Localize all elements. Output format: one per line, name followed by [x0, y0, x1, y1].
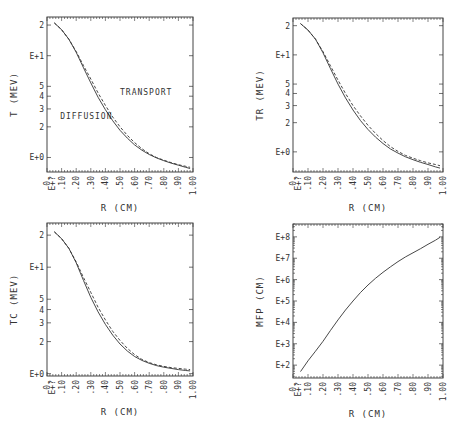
y-tick-label: E+8 [276, 233, 291, 242]
x-tick-label: .10 [58, 380, 67, 395]
y-tick-label: 3 [39, 105, 44, 114]
x-tick-label: .40 [349, 382, 358, 397]
y-tick-label: E+0 [30, 153, 45, 162]
y-tick-label: 5 [39, 295, 44, 304]
x-tick-label: .90 [174, 176, 183, 191]
y-axis-title: MFP (CM) [255, 275, 265, 326]
y-tick-label: E+1 [30, 52, 45, 61]
y-tick-label: 4 [39, 92, 44, 101]
x-tick-label: E+? [48, 380, 57, 395]
series-mfp-line [301, 237, 441, 371]
x-tick-label: 1.00 [189, 176, 198, 195]
y-tick-label: E+4 [276, 318, 291, 327]
x-axis-title: R (CM) [101, 407, 140, 417]
x-tick-label: .40 [349, 176, 358, 191]
y-axis-title: T (MEV) [9, 72, 19, 117]
x-tick-label: .20 [319, 382, 328, 397]
series-diffusion-line [54, 232, 190, 371]
x-tick-label: .70 [145, 380, 154, 395]
x-tick-label: .50 [116, 380, 125, 395]
chart-panel-t: 0.E+?.10.20.30.40.50.60.70.80.901.002E+1… [9, 17, 198, 213]
x-tick-label: .50 [116, 176, 125, 191]
x-tick-label: 1.00 [189, 380, 198, 399]
x-axis-title: R (CM) [101, 203, 140, 213]
x-tick-label: .40 [101, 176, 110, 191]
y-tick-label: 2 [39, 21, 44, 30]
x-tick-label: .10 [304, 176, 313, 191]
x-tick-label: .80 [160, 380, 169, 395]
y-tick-label: E+3 [276, 340, 291, 349]
annotation-diffusion: DIFFUSION [60, 112, 112, 121]
y-tick-label: E+6 [276, 276, 291, 285]
plot-frame [293, 18, 443, 172]
y-tick-label: E+1 [276, 51, 291, 60]
y-tick-label: 4 [285, 89, 290, 98]
x-tick-label: E+? [294, 176, 303, 191]
x-tick-label: .60 [131, 380, 140, 395]
x-tick-label: .70 [394, 176, 403, 191]
y-tick-label: 3 [285, 102, 290, 111]
y-tick-label: 4 [39, 306, 44, 315]
y-tick-label: E+2 [276, 361, 291, 370]
y-tick-label: 5 [39, 82, 44, 91]
x-axis-title: R (CM) [349, 409, 388, 419]
y-tick-label: E+1 [30, 263, 45, 272]
y-tick-label: E+7 [276, 254, 291, 263]
plot-frame [293, 224, 443, 378]
x-tick-label: .60 [379, 176, 388, 191]
chart-panel-tc: 0.E+?.10.20.30.40.50.60.70.80.901.002E+1… [9, 223, 198, 417]
x-tick-label: .20 [72, 380, 81, 395]
x-tick-label: 1.00 [439, 176, 448, 195]
x-tick-label: .80 [409, 176, 418, 191]
x-tick-label: .70 [394, 382, 403, 397]
x-tick-label: E+? [48, 176, 57, 191]
y-tick-label: E+0 [276, 148, 291, 157]
figure-canvas: 0.E+?.10.20.30.40.50.60.70.80.901.002E+1… [0, 0, 456, 435]
x-tick-label: E+? [294, 382, 303, 397]
series-transport-line [301, 24, 441, 166]
y-tick-label: 2 [285, 22, 290, 31]
x-tick-label: .30 [334, 176, 343, 191]
x-tick-label: .90 [424, 382, 433, 397]
x-tick-label: .60 [131, 176, 140, 191]
y-tick-label: 5 [285, 80, 290, 89]
y-tick-label: 2 [39, 123, 44, 132]
y-tick-label: 2 [39, 231, 44, 240]
x-tick-label: .70 [145, 176, 154, 191]
y-tick-label: 3 [39, 319, 44, 328]
y-tick-label: E+5 [276, 297, 291, 306]
annotation-transport: TRANSPORT [120, 88, 172, 97]
x-tick-label: .30 [334, 382, 343, 397]
x-tick-label: .50 [364, 176, 373, 191]
y-axis-title: TR (MEV) [255, 69, 265, 120]
x-axis-title: R (CM) [349, 203, 388, 213]
x-tick-label: .10 [304, 382, 313, 397]
x-tick-label: .60 [379, 382, 388, 397]
chart-panel-tr: 0.E+?.10.20.30.40.50.60.70.80.901.002E+1… [255, 18, 448, 213]
x-tick-label: .20 [72, 176, 81, 191]
x-tick-label: .80 [160, 176, 169, 191]
y-axis-title: TC (MEV) [9, 274, 19, 325]
y-tick-label: E+0 [30, 370, 45, 379]
chart-panel-mfp: 0.E+?.10.20.30.40.50.60.70.80.901.00E+8E… [255, 224, 448, 419]
x-tick-label: .20 [319, 176, 328, 191]
x-tick-label: .30 [87, 380, 96, 395]
x-tick-label: .80 [409, 382, 418, 397]
x-tick-label: .30 [87, 176, 96, 191]
series-transport-line [54, 232, 190, 370]
x-tick-label: 1.00 [439, 382, 448, 401]
y-tick-label: 2 [39, 338, 44, 347]
series-diffusion-line [301, 24, 441, 169]
x-tick-label: .50 [364, 382, 373, 397]
plot-frame [47, 223, 193, 376]
y-tick-label: 2 [285, 119, 290, 128]
x-tick-label: .40 [101, 380, 110, 395]
x-tick-label: .90 [424, 176, 433, 191]
x-tick-label: .10 [58, 176, 67, 191]
x-tick-label: .90 [174, 380, 183, 395]
